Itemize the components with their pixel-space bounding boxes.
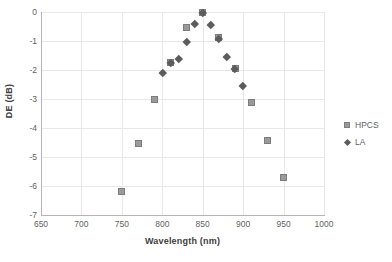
data-point-hpcs	[248, 99, 255, 106]
y-tick-label: -6	[3, 182, 37, 191]
y-tick-label: -1	[3, 37, 37, 46]
data-point-hpcs	[118, 188, 125, 195]
data-point-hpcs	[135, 140, 142, 147]
data-point-la	[183, 38, 191, 46]
gridline-horizontal	[41, 157, 324, 158]
plot-area	[41, 12, 324, 215]
data-point-la	[158, 69, 166, 77]
scatter-chart: 0-1-2-3-4-5-6-7 650700750800850900950100…	[0, 0, 392, 262]
data-point-hpcs	[264, 137, 271, 144]
legend-label: HPCS	[355, 120, 379, 130]
data-point-hpcs	[151, 96, 158, 103]
gridline-vertical	[284, 12, 285, 215]
x-axis-tick-labels: 6507007508008509009501000	[0, 219, 392, 233]
gridline-vertical	[203, 12, 204, 215]
data-point-la	[223, 52, 231, 60]
x-tick-label: 800	[142, 219, 182, 229]
y-axis-line	[41, 12, 42, 216]
legend-swatch	[344, 122, 350, 128]
y-tick-label: 0	[3, 8, 37, 17]
gridline-horizontal	[41, 70, 324, 71]
x-axis-line	[41, 215, 325, 216]
x-tick-label: 900	[223, 219, 263, 229]
data-point-hpcs	[183, 24, 190, 31]
x-tick-label: 750	[102, 219, 142, 229]
legend-item-la[interactable]: LA	[342, 133, 392, 150]
diamond-marker-icon	[342, 135, 355, 148]
x-tick-label: 650	[21, 219, 61, 229]
gridline-vertical	[81, 12, 82, 215]
gridline-vertical	[324, 12, 325, 215]
y-tick-label: -5	[3, 153, 37, 162]
legend-swatch	[343, 138, 350, 145]
x-tick-label: 700	[61, 219, 101, 229]
gridline-horizontal	[41, 12, 324, 13]
legend-label: LA	[355, 137, 365, 147]
x-tick-label: 950	[264, 219, 304, 229]
x-axis-title: Wavelength (nm)	[41, 236, 324, 246]
data-point-hpcs	[280, 174, 287, 181]
gridline-vertical	[243, 12, 244, 215]
data-point-la	[191, 20, 199, 28]
legend-item-hpcs[interactable]: HPCS	[342, 116, 392, 133]
x-tick-label: 850	[183, 219, 223, 229]
gridline-horizontal	[41, 99, 324, 100]
chart-legend: HPCSLA	[342, 116, 392, 150]
x-tick-label: 1000	[304, 219, 344, 229]
data-point-la	[207, 21, 215, 29]
gridline-vertical	[122, 12, 123, 215]
data-point-la	[175, 55, 183, 63]
data-point-la	[239, 82, 247, 90]
gridline-vertical	[162, 12, 163, 215]
square-marker-icon	[342, 118, 355, 131]
gridline-horizontal	[41, 186, 324, 187]
y-axis-title: DE (dB)	[4, 71, 14, 131]
gridline-horizontal	[41, 128, 324, 129]
